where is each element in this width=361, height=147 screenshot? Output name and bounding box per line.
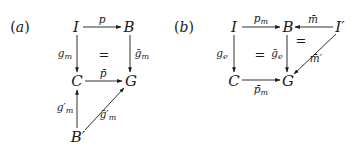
- panel-label-b: (b): [174, 20, 194, 34]
- node-b-I: I: [231, 20, 237, 35]
- node-b-Iprime: I′: [335, 20, 344, 35]
- equality-b-triangle: =: [296, 34, 307, 47]
- node-b-G: G: [282, 74, 294, 89]
- label-a-gbar-m: ḡm: [135, 48, 149, 61]
- label-a-gbarprime-m: ḡ′m: [100, 109, 117, 122]
- node-a-I: I: [73, 20, 79, 35]
- label-b-gbar-e: ḡe: [271, 48, 282, 61]
- label-b-pbar-m: p̄m: [254, 84, 268, 97]
- label-b-mbarprime: m̄′: [310, 53, 322, 64]
- node-a-C: C: [71, 74, 82, 89]
- panel-label-a: (a): [10, 20, 29, 34]
- equality-a: =: [99, 48, 110, 61]
- node-a-Bprime: B′: [71, 130, 85, 145]
- label-a-pbar: p̄: [100, 68, 107, 79]
- label-b-mbar: m̄: [308, 14, 318, 25]
- label-a-gm: gm: [58, 48, 72, 61]
- label-a-gprime-m: g′m: [57, 102, 74, 115]
- label-a-p: p: [99, 14, 106, 25]
- node-b-B: B: [282, 20, 293, 35]
- node-b-C: C: [228, 74, 239, 89]
- label-b-pm: pm: [254, 13, 268, 26]
- node-a-B: B: [123, 20, 134, 35]
- label-b-ge: ge: [216, 48, 227, 61]
- equality-b-square: =: [255, 48, 266, 61]
- node-a-G: G: [125, 74, 137, 89]
